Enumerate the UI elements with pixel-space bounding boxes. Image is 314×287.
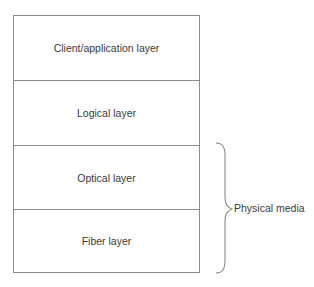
layer-label: Logical layer (77, 107, 136, 119)
layer-fiber: Fiber layer (14, 209, 199, 272)
layer-stack: Client/application layer Logical layer O… (13, 15, 200, 273)
curly-brace-icon (214, 140, 234, 276)
layer-label: Optical layer (77, 172, 135, 184)
layer-logical: Logical layer (14, 80, 199, 145)
layer-optical: Optical layer (14, 145, 199, 209)
layer-label: Fiber layer (82, 235, 132, 247)
physical-media-label: Physical media (234, 202, 305, 214)
layer-label: Client/application layer (54, 42, 160, 54)
layer-client-application: Client/application layer (14, 16, 199, 80)
